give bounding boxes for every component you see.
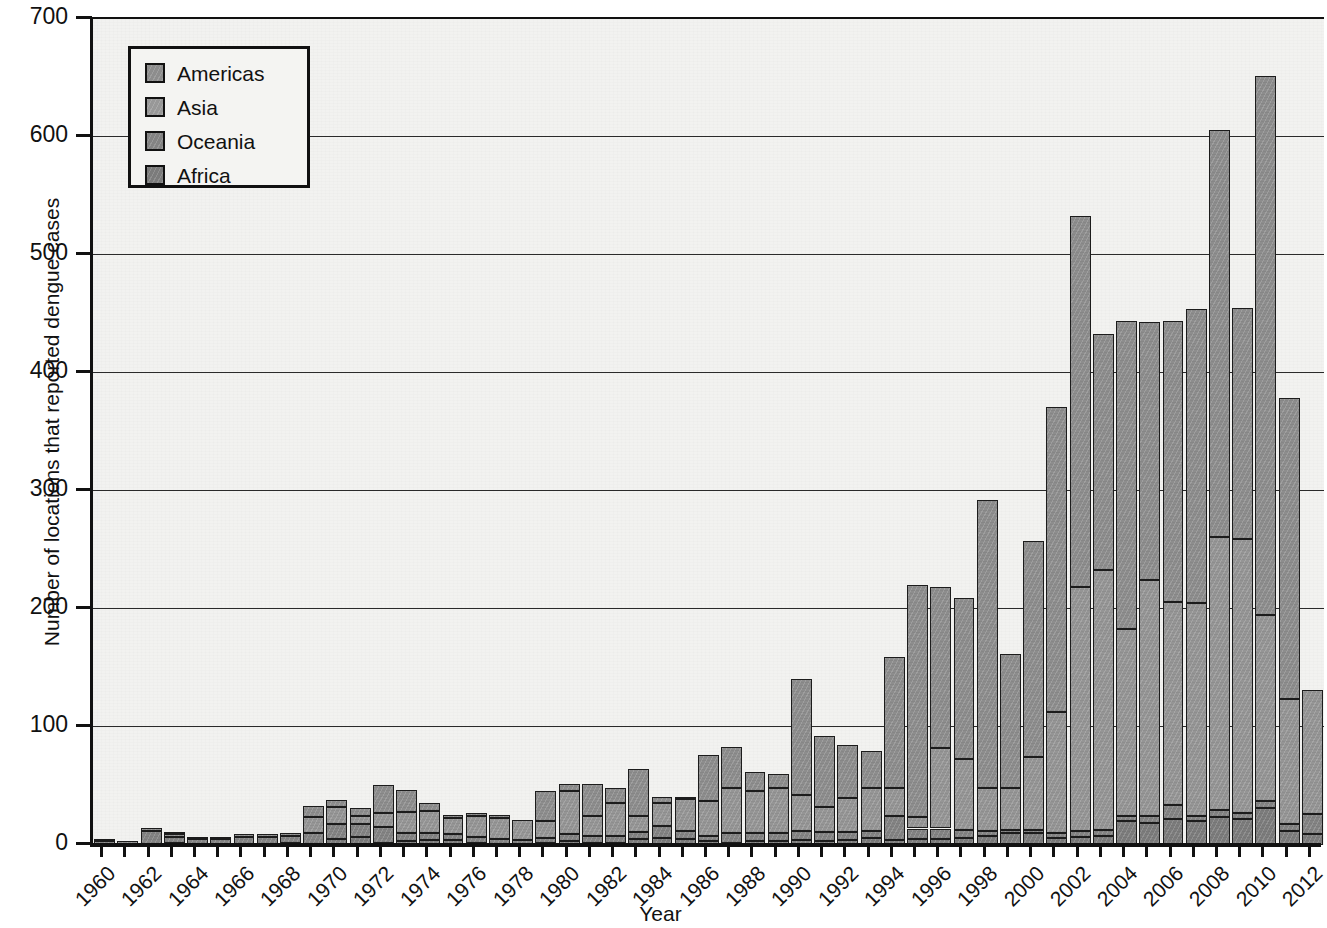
bar-1996 <box>930 587 951 845</box>
bar-segment-1985-asia <box>675 799 696 831</box>
x-tick-1968 <box>286 843 289 857</box>
bar-1979 <box>535 791 556 845</box>
bar-1997 <box>954 598 975 845</box>
bar-1987 <box>721 747 742 845</box>
bar-2008 <box>1209 130 1230 845</box>
bar-segment-2012-oceania <box>1302 814 1323 834</box>
bar-1988 <box>745 772 766 845</box>
bar-segment-1974-americas <box>419 803 440 811</box>
bar-segment-1994-americas <box>884 657 905 788</box>
bar-1970 <box>326 800 347 845</box>
bar-segment-1973-asia <box>396 812 417 833</box>
x-tick-2010 <box>1261 843 1264 857</box>
x-tick-2008 <box>1215 843 1218 857</box>
bar-segment-1970-oceania <box>326 824 347 839</box>
x-tick-1993 <box>867 843 870 857</box>
bar-segment-2005-asia <box>1139 580 1160 816</box>
gridline-500 <box>93 254 1324 255</box>
bar-segment-2011-oceania <box>1279 824 1300 831</box>
legend-item-africa: Africa <box>145 159 307 191</box>
bar-segment-1972-asia <box>373 813 394 827</box>
y-tick-200 <box>76 606 92 609</box>
legend-item-americas: Americas <box>145 57 307 89</box>
x-tick-1976 <box>472 843 475 857</box>
bar-segment-2007-asia <box>1186 603 1207 815</box>
bar-1989 <box>768 774 789 845</box>
bar-segment-1969-asia <box>303 817 324 834</box>
bar-2009 <box>1232 308 1253 845</box>
x-tick-2006 <box>1169 843 1172 857</box>
y-tick-700 <box>76 16 92 19</box>
bar-segment-1985-americas <box>675 797 696 799</box>
legend-label-asia: Asia <box>177 97 218 118</box>
bar-1995 <box>907 585 928 845</box>
bar-segment-2001-asia <box>1046 712 1067 834</box>
bar-segment-2000-oceania <box>1023 830 1044 834</box>
bar-segment-1982-asia <box>605 803 626 836</box>
bar-segment-1991-americas <box>814 736 835 807</box>
x-tick-1971 <box>356 843 359 857</box>
bar-segment-1994-asia <box>884 788 905 815</box>
bar-1994 <box>884 657 905 845</box>
bar-segment-1987-oceania <box>721 833 742 842</box>
bar-segment-2003-americas <box>1093 334 1114 570</box>
bar-segment-2009-asia <box>1232 539 1253 813</box>
bar-segment-1976-asia <box>466 816 487 837</box>
bar-1985 <box>675 798 696 845</box>
x-tick-1963 <box>170 843 173 857</box>
bar-segment-2008-americas <box>1209 130 1230 537</box>
bar-segment-2006-africa <box>1163 819 1184 845</box>
x-tick-1999 <box>1006 843 1009 857</box>
bar-segment-1980-asia <box>559 791 580 835</box>
x-tick-1978 <box>518 843 521 857</box>
bar-2011 <box>1279 398 1300 845</box>
legend-label-oceania: Oceania <box>177 131 255 152</box>
bar-segment-1963-asia <box>164 834 185 836</box>
y-tick-label-400: 400 <box>30 359 68 382</box>
bar-1982 <box>605 788 626 845</box>
bar-segment-1993-oceania <box>861 831 882 838</box>
bar-segment-1979-oceania <box>535 838 556 843</box>
bar-1998 <box>977 500 998 845</box>
bar-segment-1977-americas <box>489 815 510 817</box>
bar-segment-2006-asia <box>1163 602 1184 805</box>
bar-segment-2012-asia <box>1302 690 1323 814</box>
bar-segment-2008-africa <box>1209 817 1230 845</box>
bar-segment-2005-oceania <box>1139 816 1160 823</box>
bar-segment-2001-oceania <box>1046 833 1067 838</box>
bar-segment-1999-oceania <box>1000 830 1021 834</box>
bar-1981 <box>582 784 603 845</box>
bar-1991 <box>814 736 835 845</box>
bar-segment-1991-oceania <box>814 832 835 841</box>
x-axis-title: Year <box>0 902 1321 926</box>
bar-segment-1982-americas <box>605 788 626 802</box>
bar-segment-1971-asia <box>350 816 371 824</box>
bar-segment-1980-oceania <box>559 834 580 841</box>
bar-2007 <box>1186 309 1207 845</box>
bar-1993 <box>861 751 882 845</box>
bar-segment-1963-oceania <box>164 837 185 843</box>
bar-2001 <box>1046 407 1067 845</box>
bar-segment-1984-americas <box>652 797 673 803</box>
bar-segment-2006-oceania <box>1163 805 1184 819</box>
bar-1990 <box>791 679 812 845</box>
y-tick-100 <box>76 724 92 727</box>
bar-segment-1996-americas <box>930 587 951 749</box>
bar-segment-2002-asia <box>1070 587 1091 831</box>
bar-segment-1981-asia <box>582 816 603 836</box>
bar-segment-1992-asia <box>837 798 858 832</box>
bar-1992 <box>837 745 858 845</box>
bar-1972 <box>373 785 394 845</box>
bar-segment-1965-asia <box>210 837 231 839</box>
bar-segment-1995-americas <box>907 585 928 816</box>
x-tick-2002 <box>1076 843 1079 857</box>
bar-segment-1987-asia <box>721 788 742 833</box>
x-tick-1990 <box>797 843 800 857</box>
bar-segment-1980-americas <box>559 784 580 791</box>
bar-segment-2003-oceania <box>1093 830 1114 836</box>
x-tick-1988 <box>750 843 753 857</box>
bar-segment-2005-americas <box>1139 322 1160 579</box>
bar-segment-1962-oceania <box>141 831 162 844</box>
bar-segment-1998-americas <box>977 500 998 788</box>
